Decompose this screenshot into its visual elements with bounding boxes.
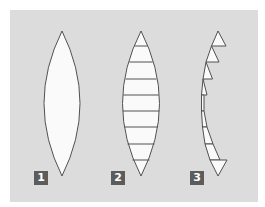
label-lens-2: 2 [111, 171, 125, 185]
lens-2-shape [123, 31, 160, 176]
lens-3-shape [202, 31, 228, 176]
lens-1-shape [44, 31, 80, 176]
label-lens-1: 1 [34, 171, 48, 185]
label-lens-3: 3 [190, 171, 204, 185]
